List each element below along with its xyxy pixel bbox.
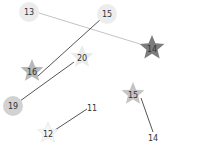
node-label: 19 <box>8 102 18 111</box>
node-n15b[interactable]: 15 <box>122 82 145 104</box>
node-label: 20 <box>77 54 87 63</box>
node-label: 14 <box>147 45 157 54</box>
node-layer: 13151416201911121514 <box>3 2 164 143</box>
node-label: 13 <box>24 8 34 17</box>
node-label: 14 <box>148 134 158 143</box>
node-n19[interactable]: 19 <box>3 96 23 116</box>
node-label: 12 <box>43 130 53 139</box>
node-n14a[interactable]: 14 <box>140 35 165 59</box>
edge-n15b-n14b[interactable] <box>141 98 153 132</box>
node-label: 15 <box>102 10 112 19</box>
node-label: 16 <box>27 68 37 77</box>
node-label: 11 <box>87 104 97 113</box>
edge-n15a-n16[interactable] <box>38 19 101 76</box>
node-n14b[interactable]: 14 <box>148 134 158 143</box>
node-n20[interactable]: 20 <box>71 45 94 67</box>
node-n13[interactable]: 13 <box>19 2 39 22</box>
puzzle-board: 13151416201911121514 <box>0 0 209 156</box>
edge-n11-n12[interactable] <box>55 109 87 130</box>
edge-layer <box>20 13 153 132</box>
node-n12[interactable]: 12 <box>38 122 59 142</box>
node-n11[interactable]: 11 <box>87 104 97 113</box>
edge-n13-n14a[interactable] <box>39 13 140 44</box>
node-n15a[interactable]: 15 <box>97 4 117 24</box>
node-n16[interactable]: 16 <box>21 59 44 81</box>
node-label: 15 <box>128 91 138 100</box>
